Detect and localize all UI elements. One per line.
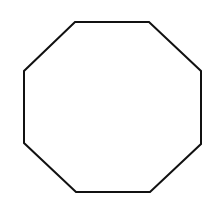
octagon-shape	[24, 22, 201, 192]
diagram-canvas	[0, 0, 210, 199]
octagon-figure	[0, 0, 210, 199]
